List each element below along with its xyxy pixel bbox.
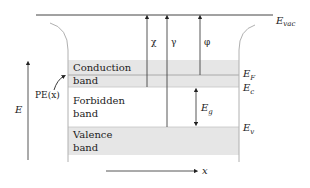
forbidden-band-label-2: band	[73, 108, 99, 119]
chi-label: χ	[151, 37, 157, 47]
fermi-level-label: EF	[242, 68, 256, 82]
gamma-label: γ	[171, 37, 176, 47]
valence-band-label-1: Valence	[72, 129, 112, 140]
phi-label: φ	[204, 37, 210, 47]
potential-energy-label: PE(x)	[35, 90, 60, 100]
position-axis-label: x	[202, 165, 208, 176]
valence-edge-label: Ev	[242, 122, 254, 136]
valence-band-label-2: band	[73, 142, 99, 153]
conduction-edge-label: Ec	[242, 82, 254, 96]
energy-axis-label: E	[14, 104, 23, 115]
conduction-band-label-1: Conduction	[73, 62, 132, 73]
pe-pointer-arrow	[54, 76, 64, 90]
vacuum-level-label: Evac	[275, 15, 295, 28]
conduction-band-label-2: band	[73, 75, 99, 86]
band-gap-label: Eg	[200, 102, 213, 116]
band-diagram: Conduction band Forbidden band Valence b…	[0, 0, 310, 188]
forbidden-band-label-1: Forbidden	[73, 95, 126, 106]
